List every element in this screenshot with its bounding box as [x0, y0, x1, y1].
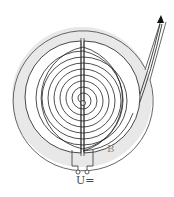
field-label: B — [107, 143, 114, 154]
exit-arrow-icon — [157, 15, 164, 23]
voltage-label: U= — [76, 174, 95, 187]
cyclotron-diagram — [0, 0, 174, 197]
